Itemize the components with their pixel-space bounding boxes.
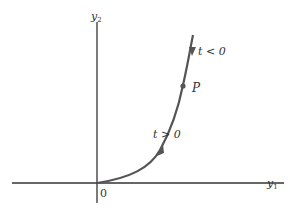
- y1-label: y1: [266, 177, 278, 191]
- point-p-label: P: [191, 81, 201, 95]
- origin-label: 0: [100, 187, 107, 200]
- arrow-up-icon: [157, 144, 164, 156]
- point-p: [180, 83, 185, 88]
- t-negative-label: t < 0: [198, 45, 226, 58]
- y2-label: y2: [90, 10, 102, 24]
- phase-diagram: y2 y1 0 P t < 0 t > 0: [0, 0, 290, 215]
- t-positive-label: t > 0: [153, 128, 181, 141]
- trajectory-curve: [97, 35, 193, 183]
